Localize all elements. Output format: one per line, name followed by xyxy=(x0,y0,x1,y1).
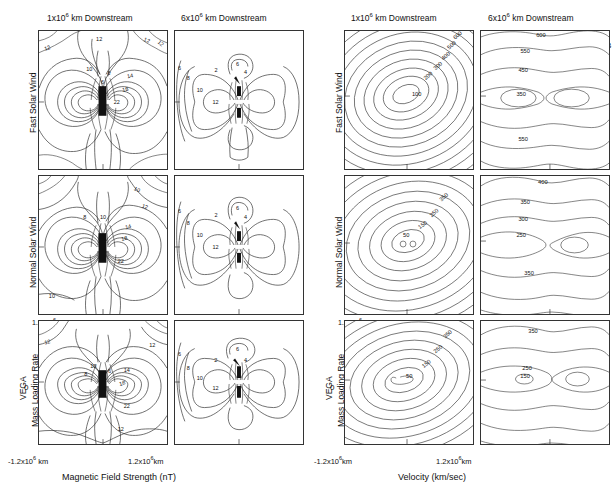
col1-prefix: 1x10 xyxy=(47,13,65,23)
panel-magnetic-fast-6x10-6[interactable]: 6 8 2 6 4 10 12 xyxy=(174,30,304,170)
svg-text:4: 4 xyxy=(244,357,247,363)
svg-text:400: 400 xyxy=(440,50,451,61)
svg-text:6: 6 xyxy=(236,61,239,67)
svg-text:150: 150 xyxy=(520,373,530,379)
svg-text:500: 500 xyxy=(446,40,457,51)
svg-text:10: 10 xyxy=(197,232,203,238)
vcol1-prefix: 1x10 xyxy=(351,13,369,23)
svg-text:10: 10 xyxy=(197,87,203,93)
svg-text:4: 4 xyxy=(244,69,247,75)
svg-text:250: 250 xyxy=(432,344,443,355)
svg-text:12: 12 xyxy=(149,342,155,348)
svg-text:350: 350 xyxy=(520,199,530,205)
svg-text:22: 22 xyxy=(124,403,130,409)
panel-velocity-normal-1x10-6[interactable]: 50 150 250 350 xyxy=(344,175,474,315)
velocity-row-label-normal-solar-wind: Normal Solar Wind xyxy=(334,217,344,288)
svg-text:12: 12 xyxy=(118,426,124,432)
xleft-prefix: -1.2x10 xyxy=(8,457,33,466)
svg-text:22: 22 xyxy=(118,258,124,264)
svg-text:8: 8 xyxy=(107,70,112,77)
xleft-suffix: km xyxy=(36,457,48,466)
panel-magnetic-normal-6x10-6[interactable]: 6 8 2 6 4 10 12 xyxy=(174,175,304,315)
panel-magnetic-vega-1x10-6[interactable]: 12 12 10 8 6 14 18 22 12 xyxy=(38,320,168,445)
velocity-x-axis-left-label: -1.2x106km xyxy=(314,455,352,466)
svg-text:6: 6 xyxy=(178,208,181,214)
velocity-column-header-6x10-6-km-downstream: 6x106 km Downstream xyxy=(488,12,574,23)
column-header-6x10-6-km-downstream: 6x106 km Downstream xyxy=(181,12,267,23)
magnetic-field-figure: 1x106 km Downstream 6x106 km Downstream … xyxy=(0,0,308,488)
svg-text:2: 2 xyxy=(214,67,217,73)
svg-text:350: 350 xyxy=(442,329,453,340)
svg-text:250: 250 xyxy=(522,365,532,371)
svg-text:12: 12 xyxy=(212,244,218,250)
xright-prefix: 1.2x10 xyxy=(128,457,151,466)
svg-text:550: 550 xyxy=(520,48,530,54)
panel-velocity-vega-1x10-6[interactable]: 50 150 250 350 xyxy=(344,320,474,445)
svg-text:400: 400 xyxy=(538,179,548,185)
svg-text:250: 250 xyxy=(516,232,526,238)
col1-suffix: km Downstream xyxy=(69,13,133,23)
svg-text:8: 8 xyxy=(83,214,86,220)
svg-text:12: 12 xyxy=(43,44,51,52)
svg-text:12: 12 xyxy=(44,338,51,345)
svg-text:6: 6 xyxy=(236,346,239,352)
x-axis-left-label: -1.2x106 km xyxy=(8,455,48,466)
col2-suffix: km Downstream xyxy=(203,13,267,23)
svg-text:12: 12 xyxy=(157,39,166,48)
svg-text:300: 300 xyxy=(432,60,443,71)
svg-text:100: 100 xyxy=(412,91,422,97)
velocity-x-axis-title: Velocity (km/sec) xyxy=(398,472,466,482)
velocity-y-axis-zero-label: 0 xyxy=(330,383,334,392)
svg-text:6: 6 xyxy=(236,205,239,211)
svg-text:12: 12 xyxy=(141,203,149,211)
panel-velocity-normal-6x10-6[interactable]: 400 350 300 250 350 xyxy=(480,175,610,315)
svg-text:450: 450 xyxy=(518,67,528,73)
y-axis-zero-label: 0 xyxy=(24,383,28,392)
svg-text:350: 350 xyxy=(438,192,449,203)
panel-velocity-fast-6x10-6[interactable]: 600 550 450 350 550 xyxy=(480,30,610,170)
vxleft-prefix: -1.2x10 xyxy=(314,457,339,466)
svg-text:14: 14 xyxy=(127,72,134,79)
x-axis-right-label: 1.2x106km xyxy=(128,455,164,466)
vcol2-prefix: 6x10 xyxy=(488,13,506,23)
svg-text:200: 200 xyxy=(422,70,433,81)
svg-text:6: 6 xyxy=(101,79,104,85)
velocity-column-header-1x10-6-km-downstream: 1x106 km Downstream xyxy=(351,12,437,23)
panel-magnetic-fast-1x10-6[interactable]: 12 12 12 12 10 8 6 14 18 22 xyxy=(38,30,168,170)
panel-velocity-fast-1x10-6[interactable]: 100 200 300 400 500 600 xyxy=(344,30,474,170)
velocity-figure: 1x106 km Downstream 6x106 km Downstream … xyxy=(308,0,616,488)
panel-magnetic-vega-6x10-6[interactable]: 6 8 2 6 4 10 12 xyxy=(174,320,304,445)
x-axis-title-magnetic-field-strength: Magnetic Field Strength (nT) xyxy=(62,472,176,482)
svg-text:12: 12 xyxy=(96,36,102,42)
svg-text:6: 6 xyxy=(178,351,181,357)
svg-text:8: 8 xyxy=(187,75,190,81)
xright-suffix: km xyxy=(154,457,164,466)
svg-text:550: 550 xyxy=(518,136,528,142)
svg-text:10: 10 xyxy=(90,363,96,369)
panel-velocity-vega-6x10-6[interactable]: 350 250 150 xyxy=(480,320,610,445)
svg-text:300: 300 xyxy=(518,216,528,222)
svg-text:18: 18 xyxy=(120,235,127,242)
svg-text:6: 6 xyxy=(108,368,111,374)
svg-text:12: 12 xyxy=(212,385,218,391)
svg-text:8: 8 xyxy=(187,220,190,226)
vcol1-suffix: km Downstream xyxy=(373,13,437,23)
column-header-1x10-6-km-downstream: 1x106 km Downstream xyxy=(47,12,133,23)
svg-text:14: 14 xyxy=(124,367,130,373)
vxright-suffix: km xyxy=(462,457,472,466)
col2-prefix: 6x10 xyxy=(181,13,199,23)
svg-text:2: 2 xyxy=(214,212,217,218)
svg-text:50: 50 xyxy=(403,232,409,238)
svg-text:600: 600 xyxy=(452,31,463,41)
svg-text:250: 250 xyxy=(428,207,439,218)
svg-text:10: 10 xyxy=(133,185,141,193)
svg-text:600: 600 xyxy=(536,32,546,38)
svg-text:8: 8 xyxy=(187,365,190,371)
svg-text:10: 10 xyxy=(197,375,203,381)
row-label-fast-solar-wind: Fast Solar Wind xyxy=(28,73,38,133)
vxleft-suffix: km xyxy=(342,457,352,466)
svg-text:10: 10 xyxy=(49,293,55,299)
svg-text:2: 2 xyxy=(214,357,217,363)
panel-magnetic-normal-1x10-6[interactable]: 10 12 8 10 14 18 22 10 xyxy=(38,175,168,315)
row-label-normal-solar-wind: Normal Solar Wind xyxy=(28,217,38,288)
